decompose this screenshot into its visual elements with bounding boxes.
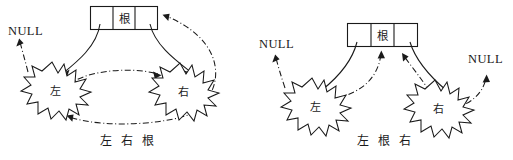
inorder-right-star-label: 右 (433, 102, 444, 116)
inorder-arrowhead-to-null-right (483, 75, 490, 83)
inorder-traversal-left-to-root-path (337, 54, 381, 98)
postorder-edge-root-to-right (150, 24, 192, 76)
postorder-traversal-to-null-path (20, 42, 28, 72)
inorder-left-star-label: 左 (310, 101, 321, 114)
diagram-inorder: 根 (272, 24, 490, 139)
diagram-postorder: 根 (16, 7, 219, 124)
postorder-root-label: 根 (119, 12, 131, 26)
inorder-root-label: 根 (377, 29, 389, 43)
inorder-arrowhead-left-to-root (378, 51, 385, 59)
postorder-edge-root-to-left-path (62, 24, 100, 74)
postorder-right-child-star: 右 (149, 63, 219, 121)
postorder-null-label-left: NULL (8, 25, 43, 38)
inorder-traversal-to-null-left-path (276, 58, 285, 88)
diagram-svg-layer: 根 (0, 0, 513, 160)
inorder-traversal-left-to-root (337, 51, 385, 99)
inorder-root-node: 根 (348, 24, 418, 47)
inorder-null-label-left: NULL (259, 38, 294, 51)
postorder-traversal-to-null (16, 39, 28, 73)
inorder-caption: 左 根 右 (357, 135, 413, 147)
diagram-canvas: 根 (0, 0, 513, 160)
postorder-edge-root-to-left (62, 24, 100, 76)
postorder-arrowhead-right-to-root (163, 14, 170, 21)
postorder-left-child-star: 左 (21, 62, 91, 120)
postorder-left-star-label: 左 (50, 85, 61, 98)
postorder-arrowhead-to-null (16, 39, 23, 47)
inorder-right-child-star: 右 (404, 80, 474, 138)
inorder-arrowhead-to-null-left (272, 55, 279, 63)
inorder-edge-root-to-right-path (410, 42, 447, 91)
postorder-edge-root-to-right-path (150, 24, 192, 73)
postorder-right-star-label: 右 (178, 85, 189, 99)
inorder-null-label-right: NULL (468, 53, 503, 66)
postorder-caption: 左 右 根 (100, 135, 156, 147)
postorder-root-node: 根 (91, 7, 158, 30)
inorder-left-child-star: 左 (281, 78, 351, 136)
inorder-traversal-to-null-left (272, 55, 285, 89)
inorder-edge-root-to-left-path (322, 42, 357, 90)
